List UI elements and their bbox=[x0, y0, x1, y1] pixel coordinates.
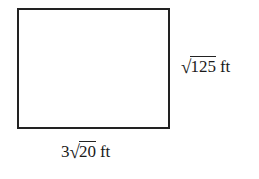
width-radicand: 20 bbox=[79, 141, 96, 160]
radical-sign-icon: √ bbox=[70, 142, 80, 161]
height-radical: √ 125 bbox=[181, 56, 216, 75]
width-coefficient: 3 bbox=[61, 143, 70, 160]
height-radicand: 125 bbox=[190, 56, 216, 75]
width-unit: ft bbox=[100, 143, 110, 160]
height-unit: ft bbox=[220, 58, 230, 75]
height-label: √ 125 ft bbox=[181, 56, 230, 75]
width-label: 3 √ 20 ft bbox=[61, 141, 110, 160]
width-radical: √ 20 bbox=[70, 141, 96, 160]
radical-sign-icon: √ bbox=[181, 57, 191, 76]
rectangle-figure bbox=[17, 8, 170, 129]
